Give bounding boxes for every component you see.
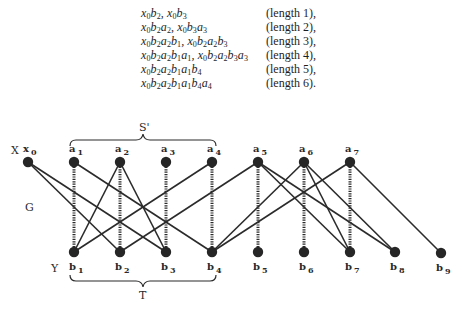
vertex-label-b8: b8 [390, 261, 405, 275]
edge-a6-b4 [212, 162, 304, 252]
vertex-a5 [253, 157, 263, 167]
vertex-x0 [23, 157, 33, 167]
graph-g-label: G [25, 201, 34, 214]
vertex-b2 [115, 247, 125, 257]
vertex-label-a1: a1 [69, 143, 83, 157]
vertex-b6 [299, 247, 309, 257]
vertex-b5 [253, 247, 263, 257]
vertex-b3 [161, 247, 171, 257]
vertex-b7 [345, 247, 355, 257]
vertex-a3 [161, 157, 171, 167]
y-set-label: Y [50, 262, 59, 275]
edge-a5-b7 [258, 162, 350, 252]
matching-edges [74, 162, 350, 252]
vertex-label-b1: b1 [69, 261, 84, 275]
x-set-label: X [11, 144, 19, 157]
vertex-a6 [299, 157, 309, 167]
vertex-labels: x0a1a2a3a4a5a6a7b1b2b3b4b5b6b7b8b9 [23, 143, 451, 276]
vertex-b4 [207, 247, 217, 257]
vertex-a4 [207, 157, 217, 167]
vertex-label-b9: b9 [436, 262, 451, 276]
vertex-label-a6: a6 [299, 143, 313, 157]
vertex-label-a7: a7 [345, 143, 359, 157]
bipartite-graph-figure: S' T X Y G x0a1a2a3a4a5a6a7b1b2b3b4b5b6b… [0, 0, 464, 313]
vertex-label-a4: a4 [207, 143, 221, 157]
vertex-label-b2: b2 [115, 261, 130, 275]
vertex-b9 [436, 248, 446, 258]
vertex-label-x0: x0 [23, 143, 37, 157]
edge-a6-b7 [304, 162, 350, 252]
edge-a6-b8 [304, 162, 395, 252]
vertex-label-a2: a2 [115, 143, 129, 157]
vertex-a2 [115, 157, 125, 167]
graph-edges [28, 162, 441, 253]
vertex-b1 [69, 247, 79, 257]
vertex-a1 [69, 157, 79, 167]
edge-a5-b2 [120, 162, 258, 252]
vertex-label-b3: b3 [161, 261, 176, 275]
vertex-label-b7: b7 [345, 261, 360, 275]
vertex-label-a3: a3 [161, 143, 175, 157]
t-label: T [139, 289, 147, 302]
s-prime-label: S' [139, 121, 150, 134]
edge-a7-b9 [350, 162, 441, 253]
vertex-label-b6: b6 [299, 261, 314, 275]
edge-a7-b4 [212, 162, 350, 252]
vertex-b8 [390, 247, 400, 257]
vertex-label-b4: b4 [207, 261, 222, 275]
vertex-label-b5: b5 [253, 261, 268, 275]
vertex-a7 [345, 157, 355, 167]
edge-a2-b1 [74, 162, 120, 252]
edge-x0-b2 [28, 162, 120, 252]
s-prime-brace [70, 134, 216, 146]
t-brace [70, 275, 216, 287]
vertex-label-a5: a5 [253, 143, 267, 157]
